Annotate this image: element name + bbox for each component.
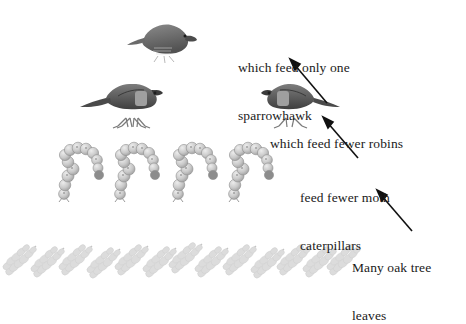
label-sparrowhawk-line1: which feed only one xyxy=(238,60,350,76)
label-leaves: Many oak tree leaves xyxy=(352,228,431,324)
label-leaves-line2: leaves xyxy=(352,308,431,324)
sparrowhawk-figure xyxy=(127,25,197,63)
label-leaves-line1: Many oak tree xyxy=(352,260,431,276)
label-caterpillars-line1: feed fewer moth xyxy=(300,190,390,206)
label-robins-line1: which feed fewer robins xyxy=(270,136,403,152)
